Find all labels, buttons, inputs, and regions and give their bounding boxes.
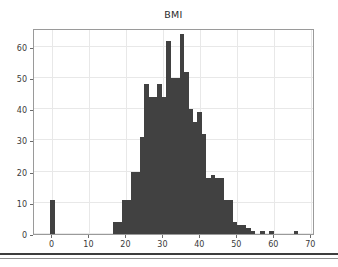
x-axis-tick-label: 20 (120, 240, 130, 249)
x-axis-tick-mark (51, 235, 52, 238)
y-axis-tick-label: 40 (7, 106, 27, 115)
x-axis-tick-label: 70 (305, 240, 315, 249)
y-axis-tick-mark (30, 141, 33, 142)
x-axis-tick-label: 60 (268, 240, 278, 249)
y-axis-tick-label: 60 (7, 43, 27, 52)
page-divider-thick (0, 253, 338, 255)
x-axis-tick-mark (236, 235, 237, 238)
gridline-vertical (237, 30, 238, 234)
y-axis-tick-mark (30, 110, 33, 111)
histogram-bar (50, 200, 54, 234)
x-axis-tick-mark (310, 235, 311, 238)
y-axis-tick-label: 50 (7, 74, 27, 83)
histogram-bar (251, 231, 255, 234)
plot-area (33, 29, 314, 235)
x-axis-tick-label: 30 (157, 240, 167, 249)
gridline-vertical (89, 30, 90, 234)
y-axis-tick-label: 30 (7, 137, 27, 146)
y-axis-tick-mark (30, 173, 33, 174)
x-axis-tick-mark (88, 235, 89, 238)
histogram-bar (294, 231, 298, 234)
y-axis-tick-label: 0 (7, 231, 27, 240)
histogram-bar (269, 231, 273, 234)
gridline-vertical (311, 30, 312, 234)
page-title: BMI (33, 9, 314, 20)
y-axis-tick-mark (30, 235, 33, 236)
x-axis-tick-label: 0 (49, 240, 54, 249)
y-axis-tick-mark (30, 48, 33, 49)
y-axis-tick-label: 10 (7, 199, 27, 208)
histogram-figure: BMI 010203040506070 0102030405060 (0, 0, 338, 250)
x-axis-tick-mark (199, 235, 200, 238)
y-axis-tick-mark (30, 204, 33, 205)
y-axis-tick-mark (30, 79, 33, 80)
y-axis-tick-label: 20 (7, 168, 27, 177)
screenshot-root: BMI 010203040506070 0102030405060 (0, 0, 338, 267)
gridline-horizontal (34, 46, 313, 47)
x-axis-tick-label: 40 (194, 240, 204, 249)
x-axis-tick-mark (273, 235, 274, 238)
x-axis-tick-mark (162, 235, 163, 238)
histogram-bar (260, 231, 264, 234)
x-axis-tick-label: 50 (231, 240, 241, 249)
x-axis-tick-mark (125, 235, 126, 238)
gridline-vertical (274, 30, 275, 234)
page-divider-thin (0, 258, 338, 259)
x-axis-tick-label: 10 (83, 240, 93, 249)
